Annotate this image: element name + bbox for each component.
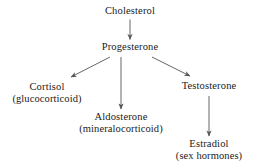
hormone-pathway-diagram: Cholesterol Progesterone Cortisol (gluco… <box>0 0 254 165</box>
node-estradiol-label: Estradiol <box>176 138 242 150</box>
node-testosterone: Testosterone <box>182 80 237 92</box>
node-testosterone-label: Testosterone <box>182 80 237 92</box>
node-cortisol-label: Cortisol <box>12 81 81 93</box>
node-progesterone: Progesterone <box>102 41 159 53</box>
node-cholesterol-label: Cholesterol <box>105 5 155 17</box>
node-aldosterone: Aldosterone (mineralocorticoid) <box>79 111 163 135</box>
node-aldosterone-label: Aldosterone <box>79 111 163 123</box>
node-aldosterone-sublabel: (mineralocorticoid) <box>79 123 163 135</box>
node-progesterone-label: Progesterone <box>102 41 159 53</box>
node-estradiol: Estradiol (sex hormones) <box>176 138 242 162</box>
arrow-progesterone-to-cortisol <box>71 57 110 77</box>
node-cortisol: Cortisol (glucocorticoid) <box>12 81 81 105</box>
node-cortisol-sublabel: (glucocorticoid) <box>12 93 81 105</box>
node-cholesterol: Cholesterol <box>105 5 155 17</box>
node-estradiol-sublabel: (sex hormones) <box>176 150 242 162</box>
arrow-progesterone-to-testosterone <box>152 57 190 76</box>
